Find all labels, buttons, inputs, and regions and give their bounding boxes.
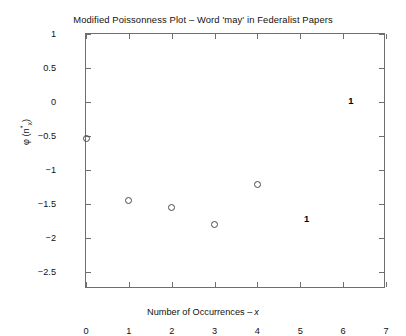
y-axis-tick-label: −2.5 bbox=[38, 267, 56, 277]
y-axis-tick-mark bbox=[86, 272, 91, 273]
plot-area: 10.50−0.5−1−1.5−2−2.50123456711 bbox=[85, 33, 385, 288]
y-axis-tick-label: −1.5 bbox=[38, 199, 56, 209]
data-point-marker bbox=[168, 204, 175, 211]
x-axis-tick-label: 4 bbox=[255, 326, 260, 336]
y-axis-tick-mark bbox=[86, 170, 91, 171]
x-axis-label-text: Number of Occurrences – bbox=[147, 307, 252, 317]
y-axis-tick-label: 0.5 bbox=[43, 63, 56, 73]
x-axis-tick-mark bbox=[386, 34, 387, 39]
y-axis-tick-mark bbox=[86, 68, 91, 69]
data-point-marker bbox=[211, 221, 218, 228]
y-axis-tick-mark bbox=[379, 136, 384, 137]
x-axis-tick-mark bbox=[300, 34, 301, 39]
x-axis-tick-label: 6 bbox=[341, 326, 346, 336]
x-axis-tick-label: 3 bbox=[212, 326, 217, 336]
y-axis-tick-mark bbox=[379, 170, 384, 171]
x-axis-label-variable: x bbox=[252, 307, 259, 317]
x-axis-tick-label: 0 bbox=[83, 326, 88, 336]
y-axis-tick-mark bbox=[379, 238, 384, 239]
chart-title: Modified Poissonness Plot – Word 'may' i… bbox=[0, 14, 406, 25]
data-annotation: 1 bbox=[304, 212, 309, 223]
x-axis-tick-mark bbox=[343, 282, 344, 287]
data-point-marker bbox=[125, 197, 132, 204]
x-axis-label: Number of Occurrences –x bbox=[0, 307, 406, 317]
y-axis-label: φ (n*x) bbox=[19, 112, 33, 152]
x-axis-tick-mark bbox=[172, 282, 173, 287]
y-axis-tick-mark bbox=[379, 204, 384, 205]
data-point-marker bbox=[83, 135, 90, 142]
y-axis-label-star: * bbox=[19, 126, 26, 129]
y-axis-tick-label: −0.5 bbox=[38, 131, 56, 141]
x-axis-tick-mark bbox=[343, 34, 344, 39]
x-axis-tick-mark bbox=[86, 34, 87, 39]
y-axis-label-subscript: x bbox=[26, 122, 33, 126]
y-axis-tick-mark bbox=[86, 102, 91, 103]
y-axis-label-close: ) bbox=[21, 119, 31, 122]
y-axis-tick-mark bbox=[86, 238, 91, 239]
y-axis-tick-label: −2 bbox=[46, 233, 56, 243]
y-axis-tick-label: 0 bbox=[51, 97, 56, 107]
x-axis-tick-mark bbox=[215, 282, 216, 287]
y-axis-label-phi: φ (n bbox=[21, 128, 31, 145]
y-axis-tick-mark bbox=[86, 204, 91, 205]
x-axis-tick-mark bbox=[257, 282, 258, 287]
x-axis-tick-label: 5 bbox=[298, 326, 303, 336]
y-axis-tick-mark bbox=[379, 68, 384, 69]
x-axis-tick-mark bbox=[215, 34, 216, 39]
x-axis-tick-mark bbox=[300, 282, 301, 287]
y-axis-tick-mark bbox=[379, 34, 384, 35]
x-axis-tick-mark bbox=[86, 282, 87, 287]
y-axis-tick-label: 1 bbox=[51, 29, 56, 39]
x-axis-tick-mark bbox=[172, 34, 173, 39]
data-point-marker bbox=[254, 181, 261, 188]
x-axis-tick-mark bbox=[129, 282, 130, 287]
data-annotation: 1 bbox=[348, 94, 353, 105]
x-axis-tick-label: 7 bbox=[383, 326, 388, 336]
x-axis-tick-mark bbox=[129, 34, 130, 39]
x-axis-tick-mark bbox=[386, 282, 387, 287]
y-axis-tick-label: −1 bbox=[46, 165, 56, 175]
y-axis-tick-mark bbox=[379, 272, 384, 273]
y-axis-tick-mark bbox=[379, 102, 384, 103]
x-axis-tick-label: 2 bbox=[169, 326, 174, 336]
x-axis-tick-mark bbox=[257, 34, 258, 39]
x-axis-tick-label: 1 bbox=[126, 326, 131, 336]
